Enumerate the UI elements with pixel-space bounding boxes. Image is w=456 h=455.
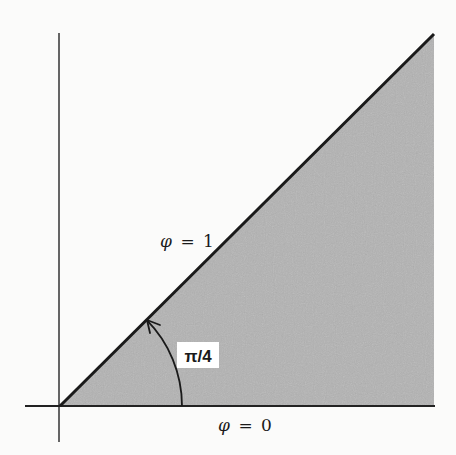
upper-boundary-equals: =	[180, 231, 194, 251]
angle-label: π/4	[184, 347, 212, 366]
upper-boundary-label: φ = 1	[160, 231, 214, 251]
lower-boundary-label: φ = 0	[218, 415, 272, 435]
wedge-diagram: π/4 φ = 1 φ = 0	[0, 0, 456, 455]
upper-boundary-value: 1	[203, 231, 214, 251]
lower-boundary-equals: =	[238, 415, 252, 435]
lower-boundary-value: 0	[261, 415, 272, 435]
lower-boundary-symbol: φ	[218, 415, 230, 435]
upper-boundary-symbol: φ	[160, 231, 172, 251]
